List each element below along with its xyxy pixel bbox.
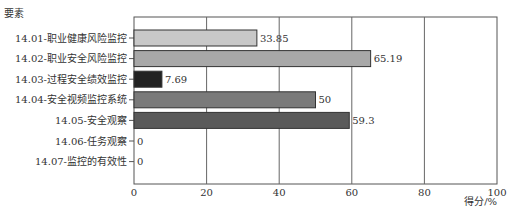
category-label: 14.05-安全观察 (55, 114, 127, 126)
bar (134, 112, 349, 128)
value-label: 65.19 (374, 53, 403, 64)
value-label: 0 (137, 136, 143, 147)
value-label: 50 (319, 94, 332, 105)
category-label: 14.06-任务观察 (55, 135, 127, 147)
x-axis-title: 得分/% (464, 196, 497, 207)
value-label: 59.3 (352, 115, 374, 126)
category-label: 14.02-职业安全风险监控 (15, 52, 127, 64)
category-label: 14.07-监控的有效性 (35, 155, 127, 167)
y-axis-title: 要素 (4, 7, 24, 19)
bar (134, 92, 316, 108)
x-tick-label: 60 (345, 187, 358, 198)
value-label: 0 (137, 156, 143, 167)
category-label: 14.04-安全视频监控系统 (15, 93, 127, 105)
bar-chart: 020406080100要素得分/%14.01-职业健康风险监控33.8514.… (0, 0, 517, 219)
x-tick-label: 40 (273, 187, 286, 198)
bar (134, 71, 162, 87)
category-label: 14.01-职业健康风险监控 (15, 32, 127, 44)
x-tick-label: 20 (200, 187, 213, 198)
value-label: 7.69 (165, 74, 187, 85)
category-label: 14.03-过程安全绩效监控 (15, 73, 127, 85)
bar (134, 30, 257, 46)
x-tick-label: 80 (418, 187, 431, 198)
x-tick-label: 0 (131, 187, 137, 198)
bar (134, 51, 371, 67)
value-label: 33.85 (260, 33, 289, 44)
